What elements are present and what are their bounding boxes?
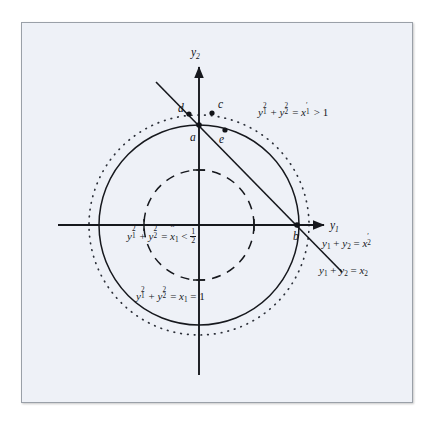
eqn-line-plain-box: y1 + y2 = x2 — [319, 265, 412, 287]
svg-text:y2: y2 — [190, 46, 200, 61]
point-a — [196, 122, 202, 128]
eqn-unit-circle-box: y21 + y22 = x1 = 1 — [136, 289, 296, 313]
plot-canvas: d c a e b y1 y2 y21 + y22 — [22, 23, 412, 402]
eqn-line-plain: y1 + y2 = x2 — [319, 265, 412, 279]
figure-root: d c a e b y1 y2 y21 + y22 — [0, 0, 435, 424]
point-label-d: d — [178, 102, 184, 114]
eqn-outer-circle: y21 + y22 = x′1 > 1 — [258, 105, 408, 118]
point-d — [186, 111, 191, 116]
eqn-inner-circle: y21 + y22 = ˆx1 < 12 — [127, 228, 292, 245]
x-axis-label: y1 — [329, 219, 339, 234]
svg-text:y1: y1 — [329, 219, 339, 234]
figure-frame: d c a e b y1 y2 y21 + y22 — [21, 22, 413, 403]
point-c — [209, 110, 214, 115]
point-label-e: e — [219, 133, 224, 145]
y-axis-label: y2 — [190, 46, 200, 61]
point-label-c: c — [218, 98, 223, 110]
eqn-unit-circle: y21 + y22 = x1 = 1 — [136, 289, 296, 305]
point-b — [294, 222, 300, 228]
eqn-inner-circle-box: y21 + y22 = ˆx1 < 12 — [127, 228, 292, 254]
eqn-line-primed-box: y1 + y2 = x′2 — [322, 236, 412, 258]
eqn-line-primed: y1 + y2 = x′2 — [322, 236, 412, 252]
point-e — [222, 127, 227, 132]
eqn-outer-circle-box: y21 + y22 = x′1 > 1 — [258, 105, 408, 127]
point-label-a: a — [190, 131, 196, 143]
point-label-b: b — [293, 230, 299, 242]
